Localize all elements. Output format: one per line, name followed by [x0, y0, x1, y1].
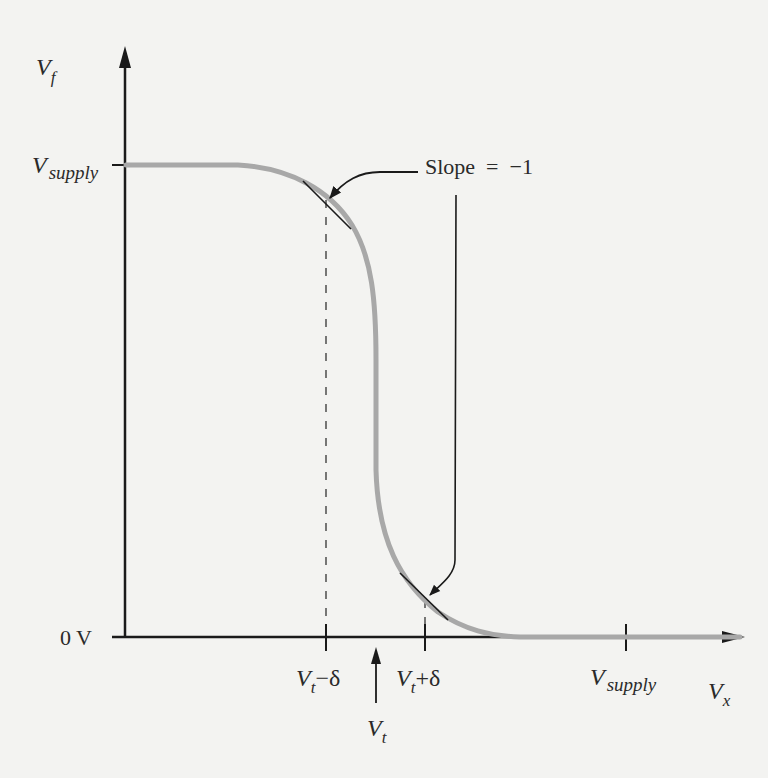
transfer-curve-diagram: Vf Vsupply 0 V Slope = −1 Vt−δ Vt+δ Vsup…: [0, 0, 768, 778]
slope-annotation-label: Slope = −1: [425, 154, 533, 179]
x-axis-label: Vx: [708, 678, 731, 710]
y-axis-arrow-icon: [119, 46, 131, 68]
y-tick-label-0v: 0 V: [60, 625, 92, 650]
tangent-line-upper: [303, 181, 351, 229]
x-tick-label-vt-minus-delta: Vt−δ: [296, 665, 340, 697]
tangent-line-lower: [400, 573, 448, 620]
vt-marker-label: Vt: [367, 715, 388, 747]
y-tick-label-vsupply: Vsupply: [32, 152, 99, 183]
diagram-page: Vf Vsupply 0 V Slope = −1 Vt−δ Vt+δ Vsup…: [0, 0, 768, 778]
annotation-arrow-lower-icon: [430, 195, 456, 595]
annotation-arrow-upper-icon: [330, 172, 418, 198]
vt-arrow-head-icon: [371, 647, 381, 664]
x-tick-label-vsupply: Vsupply: [590, 664, 657, 695]
x-tick-label-vt-plus-delta: Vt+δ: [396, 665, 440, 697]
transfer-curve: [126, 165, 740, 637]
y-axis: [119, 46, 131, 636]
y-axis-label: Vf: [36, 54, 58, 87]
